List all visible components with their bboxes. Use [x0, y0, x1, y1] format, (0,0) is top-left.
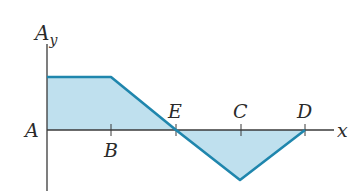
negative-region	[176, 130, 305, 180]
vertical-axis-subscript: y	[48, 32, 58, 48]
point-label-d: D	[296, 100, 312, 122]
shear-diagram: Ay A B E C D x	[0, 0, 361, 194]
point-label-e: E	[167, 100, 182, 122]
point-label-c: C	[233, 100, 248, 122]
vertical-axis-label: Ay	[33, 21, 58, 48]
point-label-b: B	[103, 139, 118, 161]
positive-region	[47, 77, 176, 130]
origin-label: A	[23, 119, 39, 141]
horizontal-axis-label: x	[337, 119, 348, 141]
